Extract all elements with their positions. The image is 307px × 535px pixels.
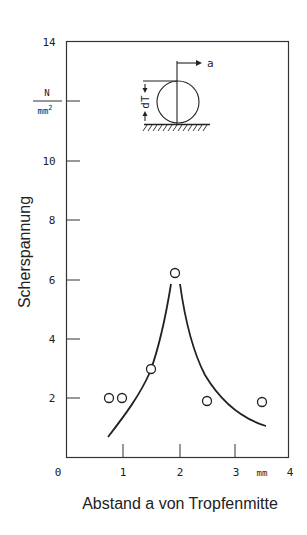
a-label: a — [207, 57, 214, 70]
droplet-diagram — [143, 60, 211, 131]
y-tick-6: 6 — [49, 274, 56, 287]
x-tick-4: 4 — [287, 466, 294, 479]
svg-text:N: N — [44, 88, 49, 98]
x-tick-labels: 0 1 2 3 mm 4 — [55, 466, 294, 479]
data-point — [258, 398, 267, 407]
y-tick-2: 2 — [49, 392, 56, 405]
data-points — [105, 269, 267, 407]
x-tick-2: 2 — [177, 466, 184, 479]
data-point — [118, 394, 127, 403]
shear-stress-chart: 2 4 6 8 10 14 N mm2 0 1 2 3 mm 4 Abstand… — [0, 0, 307, 535]
x-axis — [123, 444, 235, 458]
data-point — [147, 365, 156, 374]
y-unit-label: N mm2 — [33, 88, 62, 116]
x-axis-title: Abstand a von Tropfenmitte — [82, 495, 278, 512]
y-axis-title: Scherspannung — [16, 196, 33, 308]
data-point — [203, 397, 212, 406]
y-tick-4: 4 — [49, 333, 56, 346]
fit-curve-right — [180, 284, 266, 426]
x-tick-1: 1 — [120, 466, 127, 479]
x-tick-0: 0 — [55, 466, 62, 479]
y-tick-10: 10 — [42, 155, 55, 168]
fit-curve-left — [108, 284, 171, 437]
y-axis — [67, 101, 81, 398]
a-arrow-head — [196, 60, 202, 66]
x-unit-label: mm — [257, 468, 268, 478]
data-point — [105, 394, 114, 403]
data-point — [171, 269, 180, 278]
ground-hatching — [143, 125, 207, 131]
x-tick-3: 3 — [233, 466, 240, 479]
y-tick-14: 14 — [42, 36, 56, 49]
droplet-circle — [157, 81, 199, 123]
y-tick-8: 8 — [49, 214, 56, 227]
svg-text:mm2: mm2 — [37, 104, 52, 116]
diameter-label: dT — [139, 95, 152, 109]
